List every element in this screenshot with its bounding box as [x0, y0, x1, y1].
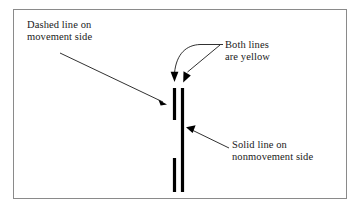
both-lines-yellow-callout: Both lines are yellow — [225, 39, 270, 64]
both-lines-branch-to-solid — [188, 45, 221, 72]
dashed-line-leader-arrowhead — [159, 100, 168, 106]
both-lines-arrowhead-dashed — [171, 72, 179, 82]
lane-line-diagram: Dashed line on movement side Both lines … — [0, 0, 359, 216]
both-lines-yellow-callout-line-2: are yellow — [225, 51, 270, 63]
solid-line-leader — [186, 125, 229, 148]
both-lines-branch-to-dashed — [175, 45, 201, 74]
both-lines-leader — [171, 45, 223, 83]
solid-line-leader-arrowhead — [186, 125, 196, 133]
dashed-line-callout: Dashed line on movement side — [27, 19, 92, 44]
dashed-line-leader-shaft — [60, 53, 163, 102]
solid-line-callout-line-1: Solid line on — [232, 139, 313, 151]
both-lines-yellow-callout-line-1: Both lines — [225, 39, 270, 51]
both-lines-arrowhead-solid — [183, 71, 191, 82]
solid-line-leader-shaft — [192, 130, 229, 148]
solid-line-callout-line-2: nonmovement side — [232, 151, 313, 163]
dashed-line-leader — [60, 53, 167, 106]
dashed-line-callout-line-2: movement side — [27, 31, 92, 43]
dashed-line-callout-line-1: Dashed line on — [27, 19, 92, 31]
solid-line-callout: Solid line on nonmovement side — [232, 139, 313, 164]
pavement-markings — [175, 88, 183, 192]
